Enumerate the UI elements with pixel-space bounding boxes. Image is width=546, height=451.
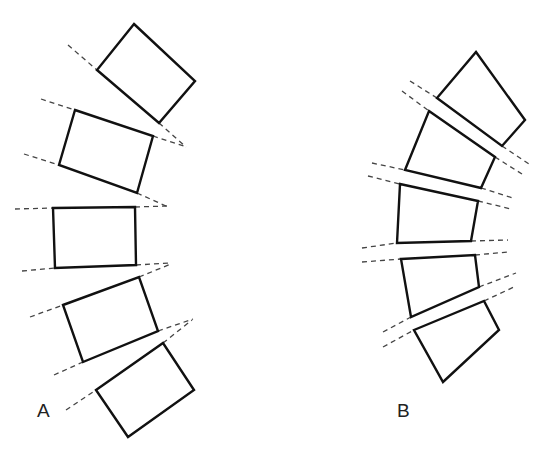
endplate-line [15, 208, 53, 209]
endplate-line [68, 45, 97, 70]
endplate-line [139, 264, 171, 277]
endplate-line [383, 330, 414, 347]
endplate-line [372, 163, 405, 170]
endplate-line [135, 206, 167, 207]
endplate-line [471, 240, 508, 241]
endplate-line [22, 268, 55, 271]
vertebra-block [96, 343, 194, 437]
endplate-line [368, 176, 400, 184]
endplate-line [159, 123, 186, 147]
endplate-line [481, 188, 513, 198]
endplate-line [484, 286, 516, 301]
endplate-line [383, 317, 411, 332]
vertebra-block [437, 52, 525, 146]
vertebra-block [59, 110, 153, 193]
vertebra-block [405, 111, 495, 188]
endplate-line [30, 305, 63, 317]
endplate-line [362, 243, 397, 248]
endplate-line [137, 193, 166, 206]
endplate-line [158, 319, 193, 331]
endplate-line [54, 362, 83, 375]
endplate-line [478, 201, 511, 209]
endplate-line [24, 154, 59, 165]
endplate-line [479, 273, 516, 287]
vertebra-block [397, 184, 478, 243]
endplate-line [41, 99, 75, 110]
panel-label-a: A [37, 400, 50, 421]
vertebra-block [63, 277, 158, 362]
endplate-line [402, 91, 429, 111]
panel-a: A [15, 24, 195, 437]
diagram-canvas: A B [0, 0, 546, 451]
endplate-line [502, 146, 529, 164]
endplate-line [495, 157, 522, 174]
endplate-line [66, 390, 96, 410]
vertebra-block [97, 24, 195, 123]
endplate-line [475, 252, 508, 255]
panel-label-b: B [397, 400, 410, 421]
endplate-line [410, 81, 437, 98]
endplate-line [163, 320, 192, 343]
vertebra-block [53, 207, 136, 268]
vertebra-block [414, 301, 499, 382]
endplate-line [136, 263, 171, 265]
endplate-line [362, 259, 401, 262]
panel-b: B [362, 52, 529, 421]
